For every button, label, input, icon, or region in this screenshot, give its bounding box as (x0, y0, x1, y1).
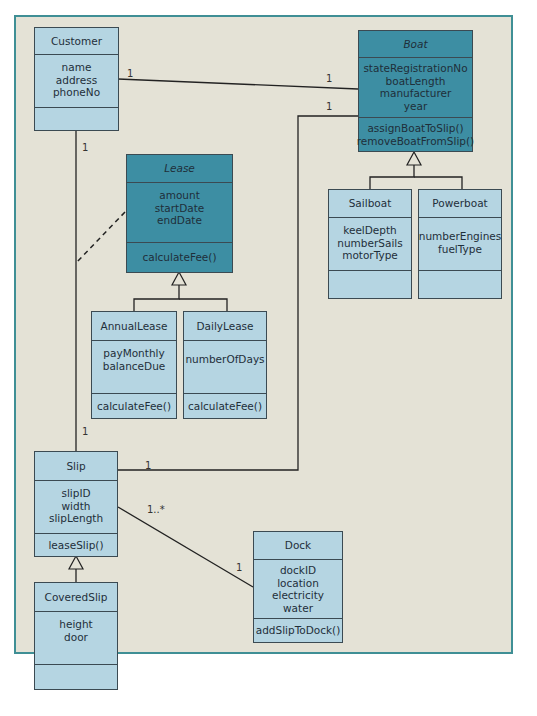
class-name: Sailboat (329, 190, 411, 218)
class-operations (35, 665, 117, 689)
slip-dock-association (118, 507, 253, 587)
class-attributes: stateRegistrationNo boatLength manufactu… (359, 58, 472, 118)
multiplicity-label: 1..* (147, 504, 165, 515)
class-name: Customer (35, 28, 118, 55)
class-name: AnnualLease (92, 312, 176, 341)
class-customer[interactable]: Customer name address phoneNo (34, 27, 119, 131)
class-attributes: keelDepth numberSails motorType (329, 218, 411, 271)
class-annual-lease[interactable]: AnnualLease payMonthly balanceDue calcul… (91, 311, 177, 419)
class-attributes: height door (35, 612, 117, 665)
class-dock[interactable]: Dock dockID location electricity water a… (253, 531, 343, 643)
class-boat[interactable]: Boat stateRegistrationNo boatLength manu… (358, 30, 473, 152)
multiplicity-label: 1 (236, 562, 242, 573)
class-operations: assignBoatToSlip() removeBoatFromSlip() (359, 118, 472, 151)
class-daily-lease[interactable]: DailyLease numberOfDays calculateFee() (183, 311, 267, 419)
class-operations: leaseSlip() (35, 534, 117, 556)
multiplicity-label: 1 (326, 73, 332, 84)
lease-generalization-triangle (172, 272, 186, 285)
class-attributes: slipID width slipLength (35, 481, 117, 534)
class-operations (329, 271, 411, 298)
class-operations: calculateFee() (127, 243, 232, 272)
class-attributes: amount startDate endDate (127, 183, 232, 243)
class-operations (35, 108, 118, 130)
class-name: DailyLease (184, 312, 266, 341)
class-operations: calculateFee() (184, 394, 266, 418)
multiplicity-label: 1 (326, 101, 332, 112)
class-name: Slip (35, 452, 117, 481)
class-name: CoveredSlip (35, 583, 117, 612)
class-attributes: name address phoneNo (35, 55, 118, 108)
slip-generalization-triangle (69, 556, 83, 569)
multiplicity-label: 1 (127, 68, 133, 79)
class-attributes: payMonthly balanceDue (92, 341, 176, 394)
class-name: Lease (127, 155, 232, 183)
class-attributes: numberOfDays (184, 341, 266, 394)
customer-boat-association (118, 79, 358, 89)
class-powerboat[interactable]: Powerboat numberEngines fuelType (418, 189, 502, 299)
class-sailboat[interactable]: Sailboat keelDepth numberSails motorType (328, 189, 412, 299)
multiplicity-label: 1 (82, 426, 88, 437)
class-lease[interactable]: Lease amount startDate endDate calculate… (126, 154, 233, 273)
class-covered-slip[interactable]: CoveredSlip height door (34, 582, 118, 690)
class-name: Powerboat (419, 190, 501, 218)
boat-generalization-triangle (407, 152, 421, 165)
class-operations (419, 271, 501, 298)
class-slip[interactable]: Slip slipID width slipLength leaseSlip() (34, 451, 118, 557)
multiplicity-label: 1 (82, 142, 88, 153)
lease-association-class-link (77, 212, 125, 262)
class-attributes: numberEngines fuelType (419, 218, 501, 271)
class-name: Dock (254, 532, 342, 560)
class-operations: calculateFee() (92, 394, 176, 418)
class-attributes: dockID location electricity water (254, 560, 342, 619)
multiplicity-label: 1 (145, 460, 151, 471)
class-operations: addSlipToDock() (254, 619, 342, 642)
class-name: Boat (359, 31, 472, 58)
